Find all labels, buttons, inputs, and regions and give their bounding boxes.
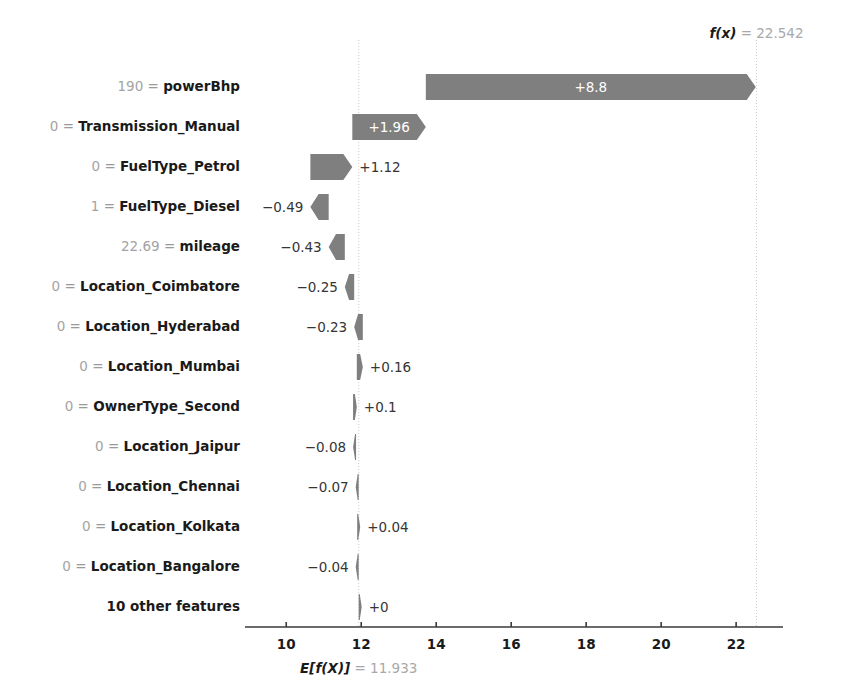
equals-sign: = xyxy=(88,358,108,374)
bar-value-label: −0.43 xyxy=(280,239,321,255)
feature-name: Location_Chennai xyxy=(107,478,240,494)
feature-name: FuelType_Petrol xyxy=(120,158,240,174)
waterfall-bar xyxy=(353,434,356,460)
waterfall-canvas xyxy=(0,0,852,698)
equals-sign: = xyxy=(143,78,163,94)
feature-row-label: 0 = Location_Hyderabad xyxy=(57,320,240,334)
feature-value: 22.69 xyxy=(121,238,160,254)
bar-value-label: −0.49 xyxy=(262,199,303,215)
feature-value: 0 xyxy=(82,518,91,534)
equals-sign: = xyxy=(58,118,78,134)
x-axis-tick-label: 16 xyxy=(502,636,521,652)
feature-value: 0 xyxy=(57,318,66,334)
feature-name: powerBhp xyxy=(163,78,240,94)
feature-name: Location_Mumbai xyxy=(108,358,240,374)
feature-name: Location_Hyderabad xyxy=(85,318,240,334)
bar-value-label: −0.23 xyxy=(306,319,347,335)
equals-sign: = xyxy=(60,278,80,294)
waterfall-bar xyxy=(310,154,352,180)
feature-name: mileage xyxy=(180,238,240,254)
equals-sign: = xyxy=(99,198,119,214)
feature-value: 0 xyxy=(52,278,61,294)
equals-sign: = xyxy=(91,518,111,534)
efx-symbol: E[f(X)] xyxy=(300,660,350,676)
feature-row-label: 0 = FuelType_Petrol xyxy=(92,160,240,174)
base-value-label: E[f(X)] = 11.933 xyxy=(300,660,417,676)
x-axis-tick-label: 20 xyxy=(652,636,671,652)
feature-name: 10 other features xyxy=(107,598,240,614)
feature-row-label: 0 = Location_Kolkata xyxy=(82,520,240,534)
fx-symbol: f(x) xyxy=(709,25,736,41)
waterfall-bar xyxy=(345,274,354,300)
bar-value-label: +0.1 xyxy=(364,399,397,415)
bar-value-label: −0.07 xyxy=(307,479,348,495)
feature-row-label: 0 = OwnerType_Second xyxy=(65,400,240,414)
efx-value: = 11.933 xyxy=(350,660,417,676)
feature-row-label: 22.69 = mileage xyxy=(121,240,240,254)
x-axis-tick-label: 10 xyxy=(277,636,296,652)
bar-value-label: +1.12 xyxy=(359,159,400,175)
feature-value: 0 xyxy=(62,558,71,574)
waterfall-bar xyxy=(357,354,363,380)
equals-sign: = xyxy=(87,478,107,494)
shap-waterfall-plot: +8.8190 = powerBhp+1.960 = Transmission_… xyxy=(0,0,852,698)
x-axis-tick-label: 22 xyxy=(727,636,746,652)
feature-value: 0 xyxy=(65,398,74,414)
feature-row-label: 0 = Location_Coimbatore xyxy=(52,280,240,294)
bar-value-label: +1.96 xyxy=(368,119,409,135)
feature-row-label: 1 = FuelType_Diesel xyxy=(91,200,240,214)
x-axis-tick-label: 18 xyxy=(577,636,596,652)
feature-value: 0 xyxy=(79,358,88,374)
feature-value: 0 xyxy=(95,438,104,454)
feature-row-label: 0 = Location_Bangalore xyxy=(62,560,240,574)
feature-name: FuelType_Diesel xyxy=(119,198,240,214)
waterfall-bar xyxy=(310,194,328,220)
bar-value-label: −0.25 xyxy=(296,279,337,295)
equals-sign: = xyxy=(65,318,85,334)
waterfall-bar xyxy=(353,394,357,420)
feature-name: Location_Bangalore xyxy=(91,558,240,574)
bar-value-label: +0.16 xyxy=(370,359,411,375)
feature-value: 0 xyxy=(50,118,59,134)
x-axis-tick-label: 14 xyxy=(427,636,446,652)
feature-value: 1 xyxy=(91,198,100,214)
feature-value: 0 xyxy=(78,478,87,494)
feature-row-label: 190 = powerBhp xyxy=(118,80,240,94)
feature-row-label: 10 other features xyxy=(107,600,240,614)
feature-row-label: 0 = Transmission_Manual xyxy=(50,120,240,134)
bar-value-label: +0 xyxy=(369,599,389,615)
bar-value-label: −0.08 xyxy=(305,439,346,455)
feature-row-label: 0 = Location_Chennai xyxy=(78,480,240,494)
feature-name: Transmission_Manual xyxy=(78,118,240,134)
waterfall-bar xyxy=(329,234,345,260)
feature-name: Location_Coimbatore xyxy=(80,278,240,294)
bar-value-label: +0.04 xyxy=(367,519,408,535)
feature-name: Location_Kolkata xyxy=(111,518,240,534)
feature-name: OwnerType_Second xyxy=(93,398,240,414)
feature-row-label: 0 = Location_Jaipur xyxy=(95,440,240,454)
waterfall-bar xyxy=(356,474,359,500)
feature-value: 190 xyxy=(118,78,144,94)
equals-sign: = xyxy=(73,398,93,414)
x-axis-tick-label: 12 xyxy=(352,636,371,652)
waterfall-bar xyxy=(357,514,360,540)
equals-sign: = xyxy=(71,558,91,574)
equals-sign: = xyxy=(104,438,124,454)
feature-row-label: 0 = Location_Mumbai xyxy=(79,360,240,374)
waterfall-bar xyxy=(359,594,362,620)
fx-value: = 22.542 xyxy=(736,25,803,41)
bar-value-label: −0.04 xyxy=(307,559,348,575)
waterfall-bar xyxy=(354,314,363,340)
waterfall-bar xyxy=(356,554,359,580)
bar-value-label: +8.8 xyxy=(574,79,607,95)
output-value-label: f(x) = 22.542 xyxy=(709,25,803,41)
equals-sign: = xyxy=(160,238,180,254)
feature-value: 0 xyxy=(92,158,101,174)
feature-name: Location_Jaipur xyxy=(124,438,240,454)
equals-sign: = xyxy=(100,158,120,174)
